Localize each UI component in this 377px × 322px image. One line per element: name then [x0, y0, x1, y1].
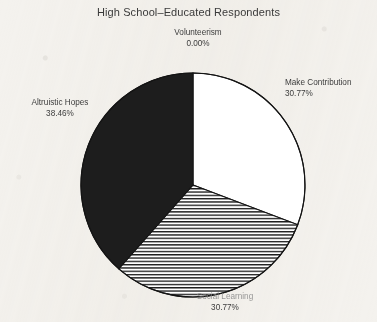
slice-label-bottom-category: Social Learning	[165, 292, 285, 303]
slice-label-volunteerism-percent: 0.00%	[148, 39, 248, 50]
slice-label-volunteerism: Volunteerism 0.00%	[148, 28, 248, 49]
slice-label-make-contribution-percent: 30.77%	[285, 89, 377, 100]
slice-label-altruistic-hopes-category: Altruistic Hopes	[32, 98, 89, 107]
slice-label-make-contribution: Make Contribution 30.77%	[285, 78, 377, 99]
slice-label-altruistic-hopes: Altruistic Hopes 38.46%	[8, 98, 112, 119]
slice-label-bottom-percent: 30.77%	[165, 303, 285, 314]
slice-label-make-contribution-category: Make Contribution	[285, 78, 351, 87]
slice-label-bottom: Social Learning 30.77%	[165, 292, 285, 313]
slice-label-volunteerism-category: Volunteerism	[174, 28, 221, 37]
slice-label-altruistic-hopes-percent: 38.46%	[8, 109, 112, 120]
